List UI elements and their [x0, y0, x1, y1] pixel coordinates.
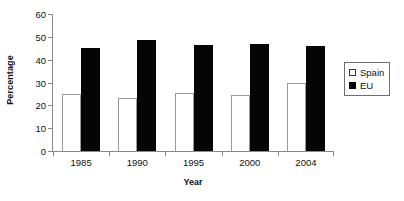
y-tick-label: 50	[35, 31, 46, 42]
x-tick-cell-2004	[278, 152, 334, 156]
y-tick-mark	[48, 128, 52, 129]
x-axis-ticks	[53, 152, 334, 156]
x-tick-cell-1985	[53, 152, 109, 156]
x-tick-label-2000: 2000	[222, 157, 278, 168]
legend-item-eu[interactable]: EU	[349, 79, 384, 92]
x-axis-labels: 19851990199520002004	[53, 157, 334, 168]
y-tick-label: 10	[35, 123, 46, 134]
legend-label-eu: EU	[360, 80, 373, 91]
bar-chart: Percentage 0102030405060 198519901995200…	[0, 0, 404, 201]
bar-spain-1990[interactable]	[118, 98, 137, 151]
bar-group-1985	[53, 14, 109, 151]
bar-group-1995	[165, 14, 221, 151]
y-tick-mark	[48, 105, 52, 106]
x-tick-cell-1990	[109, 152, 165, 156]
x-tick-label-1995: 1995	[165, 157, 221, 168]
x-axis-title-label: Year	[183, 177, 202, 187]
hollow-square-icon	[349, 69, 356, 76]
bar-spain-1985[interactable]	[62, 94, 81, 151]
y-tick-mark	[48, 60, 52, 61]
y-axis-title: Percentage	[0, 0, 20, 160]
bar-group-2000	[222, 14, 278, 151]
filled-square-icon	[349, 82, 356, 89]
legend-label-spain: Spain	[360, 67, 384, 78]
y-tick-label: 20	[35, 100, 46, 111]
y-tick-label: 0	[41, 146, 46, 157]
bar-group-1990	[109, 14, 165, 151]
bar-spain-2004[interactable]	[287, 83, 306, 152]
bars-layer	[53, 14, 334, 151]
plot-area: 0102030405060	[52, 14, 334, 152]
y-tick-label: 60	[35, 9, 46, 20]
bar-eu-2004[interactable]	[306, 46, 325, 151]
y-tick-label: 40	[35, 54, 46, 65]
y-tick-mark	[48, 83, 52, 84]
chart-legend: SpainEU	[344, 62, 390, 96]
bar-eu-2000[interactable]	[250, 44, 269, 151]
x-axis-title: Year	[52, 177, 334, 187]
bar-eu-1995[interactable]	[194, 45, 213, 151]
x-tick-label-2004: 2004	[278, 157, 334, 168]
bar-spain-1995[interactable]	[175, 93, 194, 151]
x-tick-label-1990: 1990	[109, 157, 165, 168]
bar-spain-2000[interactable]	[231, 95, 250, 151]
x-tick-cell-1995	[165, 152, 221, 156]
y-tick-mark	[48, 14, 52, 15]
y-axis-title-label: Percentage	[5, 55, 15, 105]
y-tick-label: 30	[35, 77, 46, 88]
bar-eu-1985[interactable]	[81, 48, 100, 151]
x-tick-cell-2000	[222, 152, 278, 156]
bar-group-2004	[278, 14, 334, 151]
y-tick-mark	[48, 37, 52, 38]
bar-eu-1990[interactable]	[137, 40, 156, 151]
x-tick-label-1985: 1985	[53, 157, 109, 168]
legend-item-spain[interactable]: Spain	[349, 66, 384, 79]
y-tick-mark	[48, 151, 52, 152]
